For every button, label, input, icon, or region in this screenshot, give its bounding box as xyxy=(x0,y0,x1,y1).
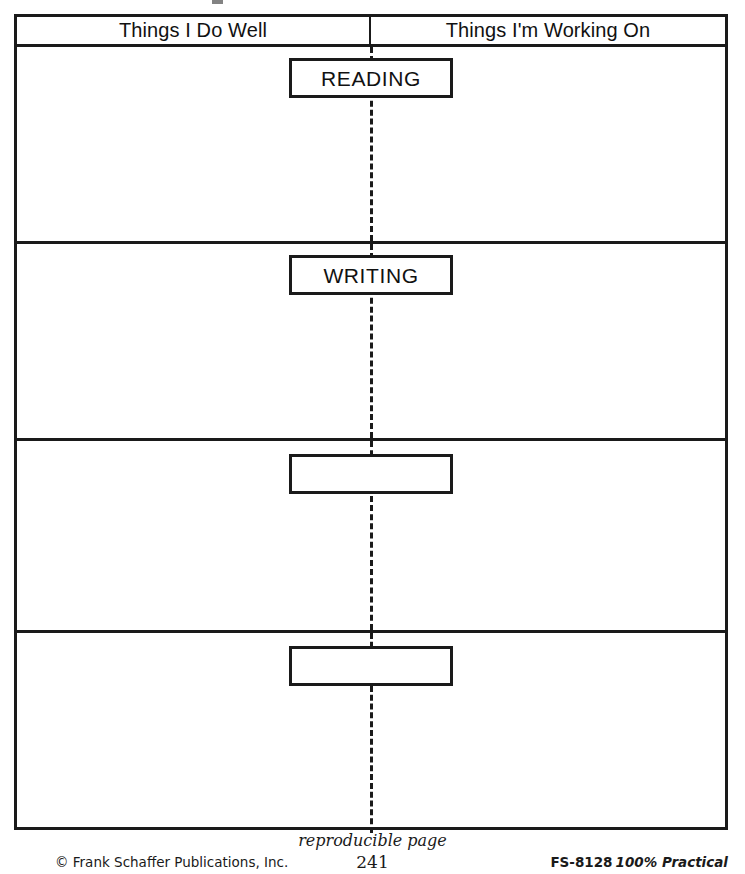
product-name: 100% Practical xyxy=(616,854,728,870)
table-row: WRITING xyxy=(17,244,725,441)
column-header-things-i-do-well: Things I Do Well xyxy=(17,17,371,44)
catalog-code-block: FS-8128100% Practical xyxy=(550,854,728,870)
table-row xyxy=(17,441,725,633)
topic-label-box-reading[interactable]: READING xyxy=(289,58,453,98)
topic-label-text: WRITING xyxy=(323,265,418,286)
scan-artifact-speck xyxy=(212,0,223,4)
page-footer: reproducible page 241 © Frank Schaffer P… xyxy=(0,832,745,874)
table-header-row: Things I Do Well Things I'm Working On xyxy=(17,17,725,47)
column-header-things-im-working-on: Things I'm Working On xyxy=(371,17,725,44)
copyright-notice: © Frank Schaffer Publications, Inc. xyxy=(55,854,288,870)
column-header-label: Things I Do Well xyxy=(119,20,267,40)
reproducible-page-note: reproducible page xyxy=(0,832,745,850)
table-body: READING WRITING xyxy=(17,47,725,827)
table-row xyxy=(17,633,725,833)
worksheet-table: Things I Do Well Things I'm Working On R… xyxy=(14,14,728,830)
topic-label-box-blank-row3[interactable] xyxy=(289,454,453,494)
catalog-code: FS-8128 xyxy=(550,854,612,870)
topic-label-box-writing[interactable]: WRITING xyxy=(289,255,453,295)
topic-label-text: READING xyxy=(321,68,421,89)
worksheet-page: Things I Do Well Things I'm Working On R… xyxy=(0,0,745,874)
table-row: READING xyxy=(17,47,725,244)
column-header-label: Things I'm Working On xyxy=(446,20,651,40)
topic-label-box-blank-row4[interactable] xyxy=(289,646,453,686)
